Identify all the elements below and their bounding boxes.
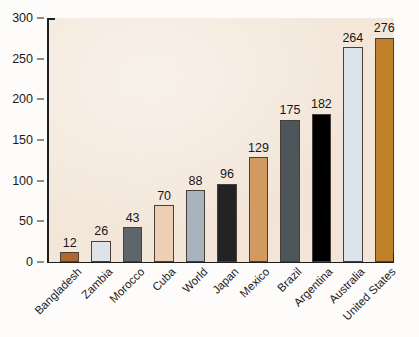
y-tick-label: 100	[12, 174, 33, 187]
y-axis: 050100150200250300	[0, 0, 44, 337]
y-axis-top-cap	[47, 18, 55, 20]
y-tick-mark	[37, 58, 44, 59]
y-tick-label: 200	[12, 93, 33, 106]
y-tick-label: 50	[19, 215, 33, 228]
bar-value-label: 70	[157, 190, 171, 203]
bar-value-label: 276	[374, 22, 395, 35]
bar-chart: 122643708896129175182264276 050100150200…	[0, 0, 419, 337]
x-axis-label-text: Japan	[211, 266, 241, 296]
bar-value-label: 264	[342, 32, 363, 45]
plot-area: 122643708896129175182264276	[48, 18, 394, 262]
bar-value-label: 12	[63, 237, 77, 250]
y-tick-label: 150	[12, 134, 33, 147]
y-tick-mark	[37, 180, 44, 181]
y-tick-label: 300	[12, 12, 33, 25]
bars-layer: 122643708896129175182264276	[48, 18, 394, 262]
bar-value-label: 182	[311, 98, 332, 111]
bar-value-label: 175	[279, 104, 300, 117]
y-tick-mark	[37, 262, 44, 263]
y-axis-line	[47, 18, 49, 263]
bar	[312, 114, 332, 262]
bar	[343, 47, 363, 262]
y-tick-mark	[37, 140, 44, 141]
y-tick-mark	[37, 99, 44, 100]
bar-value-label: 96	[220, 168, 234, 181]
bar-value-label: 129	[248, 142, 269, 155]
bar	[375, 38, 395, 262]
y-tick-mark	[37, 221, 44, 222]
bar-value-label: 88	[189, 175, 203, 188]
x-axis-label-text: Cuba	[151, 266, 179, 294]
y-tick-mark	[37, 18, 44, 19]
y-tick-label: 250	[12, 52, 33, 65]
x-axis-label-text: World	[180, 266, 209, 295]
bar-value-label: 43	[126, 212, 140, 225]
y-tick-label: 0	[26, 256, 33, 269]
x-axis-category-labels: BangladeshZambiaMoroccoCubaWorldJapanMex…	[48, 262, 394, 337]
